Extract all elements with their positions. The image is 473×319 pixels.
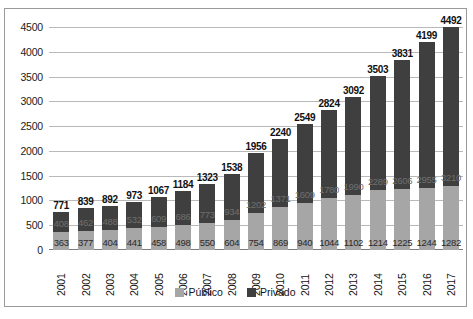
bar-value-publico: 550 <box>200 237 215 248</box>
bar-segment-privado[interactable]: 1202 <box>248 153 264 213</box>
bar-value-publico: 498 <box>175 237 190 248</box>
bar-total-label: 3503 <box>367 64 388 75</box>
stacked-bar[interactable]: 19561202754 <box>248 153 264 250</box>
bar-value-publico: 458 <box>151 237 166 248</box>
bar-total-label: 1956 <box>246 141 267 152</box>
bar-value-privado: 3210 <box>441 172 461 183</box>
y-axis-tick-label: 0 <box>37 244 43 256</box>
stacked-bar[interactable]: 22401371869 <box>272 139 288 250</box>
bar-column[interactable]: 892488404 <box>98 27 122 250</box>
bar-segment-privado[interactable]: 686 <box>175 191 191 225</box>
stacked-bar[interactable]: 383126061225 <box>394 60 410 250</box>
bar-value-publico: 754 <box>249 237 264 248</box>
bar-column[interactable]: 839462377 <box>73 27 97 250</box>
bar-segment-publico[interactable]: 363 <box>53 232 69 250</box>
stacked-bar[interactable]: 1538934604 <box>224 174 240 250</box>
bar-segment-privado[interactable]: 3210 <box>443 27 459 186</box>
bar-segment-privado[interactable]: 2955 <box>419 42 435 188</box>
stacked-bar[interactable]: 771408363 <box>53 212 69 250</box>
bar-value-publico: 441 <box>127 237 142 248</box>
bar-segment-publico[interactable]: 458 <box>151 227 167 250</box>
bar-column[interactable]: 449232101282 <box>439 27 463 250</box>
stacked-bar[interactable]: 282417801044 <box>321 110 337 250</box>
bar-column[interactable]: 1323773550 <box>195 27 219 250</box>
bar-column[interactable]: 771408363 <box>49 27 73 250</box>
stacked-bar[interactable]: 1323773550 <box>199 184 215 250</box>
bar-column[interactable]: 1184686498 <box>171 27 195 250</box>
bar-segment-privado[interactable]: 2289 <box>370 76 386 189</box>
bar-total-label: 2824 <box>319 98 340 109</box>
bar-segment-privado[interactable]: 1371 <box>272 139 288 207</box>
stacked-bar[interactable]: 25491609940 <box>297 124 313 250</box>
stacked-bar[interactable]: 1184686498 <box>175 191 191 250</box>
bar-segment-privado[interactable]: 934 <box>224 174 240 220</box>
chart-screenshot: 050010001500200025003000350040004500 771… <box>0 0 473 319</box>
bar-column[interactable]: 973532441 <box>122 27 146 250</box>
bar-segment-publico[interactable]: 550 <box>199 223 215 250</box>
y-axis-tick-label: 3000 <box>20 95 43 107</box>
plot-area: 050010001500200025003000350040004500 771… <box>49 27 463 250</box>
bar-segment-privado[interactable]: 488 <box>102 206 118 230</box>
stacked-bar[interactable]: 309219901102 <box>345 97 361 250</box>
bar-column[interactable]: 22401371869 <box>268 27 292 250</box>
bar-value-publico: 363 <box>54 237 69 248</box>
bar-segment-publico[interactable]: 404 <box>102 230 118 250</box>
bar-segment-publico[interactable]: 441 <box>126 228 142 250</box>
legend-item[interactable]: Privado <box>247 286 296 298</box>
stacked-bar[interactable]: 419929551244 <box>419 42 435 250</box>
bar-column[interactable]: 25491609940 <box>293 27 317 250</box>
bar-column[interactable]: 350322891214 <box>366 27 390 250</box>
bar-segment-privado[interactable]: 1990 <box>345 97 361 196</box>
bar-segment-privado[interactable]: 1609 <box>297 124 313 204</box>
y-axis-tick-label: 2000 <box>20 145 43 157</box>
stacked-bar[interactable]: 449232101282 <box>443 27 459 250</box>
bar-segment-publico[interactable]: 1214 <box>370 190 386 250</box>
stacked-bar[interactable]: 892488404 <box>102 206 118 250</box>
bar-segment-privado[interactable]: 1780 <box>321 110 337 198</box>
bar-segment-publico[interactable]: 940 <box>297 203 313 250</box>
bar-segment-publico[interactable]: 1044 <box>321 198 337 250</box>
bar-value-privado: 934 <box>224 206 239 217</box>
stacked-bar[interactable]: 839462377 <box>78 208 94 250</box>
bar-column[interactable]: 1067609458 <box>146 27 170 250</box>
bar-column[interactable]: 1538934604 <box>220 27 244 250</box>
bar-segment-publico[interactable]: 869 <box>272 207 288 250</box>
bar-segment-publico[interactable]: 1244 <box>419 188 435 250</box>
bar-column[interactable]: 19561202754 <box>244 27 268 250</box>
bar-column[interactable]: 419929551244 <box>414 27 438 250</box>
legend-item[interactable]: Público <box>175 286 222 298</box>
bar-segment-privado[interactable]: 773 <box>199 184 215 222</box>
bar-segment-publico[interactable]: 498 <box>175 225 191 250</box>
bar-column[interactable]: 309219901102 <box>341 27 365 250</box>
bar-value-privado: 2955 <box>417 174 437 185</box>
bar-total-label: 839 <box>78 196 94 207</box>
bar-value-privado: 686 <box>175 211 190 222</box>
bar-segment-publico[interactable]: 754 <box>248 213 264 250</box>
bar-segment-privado[interactable]: 408 <box>53 212 69 232</box>
bar-segment-publico[interactable]: 377 <box>78 231 94 250</box>
bar-value-privado: 2289 <box>368 176 388 187</box>
bar-value-publico: 1225 <box>392 237 412 248</box>
bar-total-label: 1323 <box>197 172 218 183</box>
bar-value-privado: 1990 <box>344 181 364 192</box>
y-axis-tick-label: 4000 <box>20 46 43 58</box>
bar-segment-privado[interactable]: 2606 <box>394 60 410 189</box>
stacked-bar[interactable]: 350322891214 <box>370 76 386 250</box>
bar-value-publico: 940 <box>297 237 312 248</box>
bar-value-privado: 1202 <box>246 199 266 210</box>
bar-value-publico: 1044 <box>319 237 339 248</box>
bar-segment-privado[interactable]: 532 <box>126 202 142 228</box>
bar-column[interactable]: 282417801044 <box>317 27 341 250</box>
bar-segment-publico[interactable]: 604 <box>224 220 240 250</box>
bar-value-privado: 1609 <box>295 189 315 200</box>
bar-segment-privado[interactable]: 462 <box>78 208 94 231</box>
bar-column[interactable]: 383126061225 <box>390 27 414 250</box>
bar-segment-privado[interactable]: 609 <box>151 197 167 227</box>
stacked-bar[interactable]: 973532441 <box>126 202 142 250</box>
bar-segment-publico[interactable]: 1225 <box>394 189 410 250</box>
bar-value-privado: 462 <box>78 217 93 228</box>
chart-legend: PúblicoPrivado <box>5 286 466 298</box>
bar-segment-publico[interactable]: 1282 <box>443 186 459 250</box>
bar-segment-publico[interactable]: 1102 <box>345 195 361 250</box>
stacked-bar[interactable]: 1067609458 <box>151 197 167 250</box>
